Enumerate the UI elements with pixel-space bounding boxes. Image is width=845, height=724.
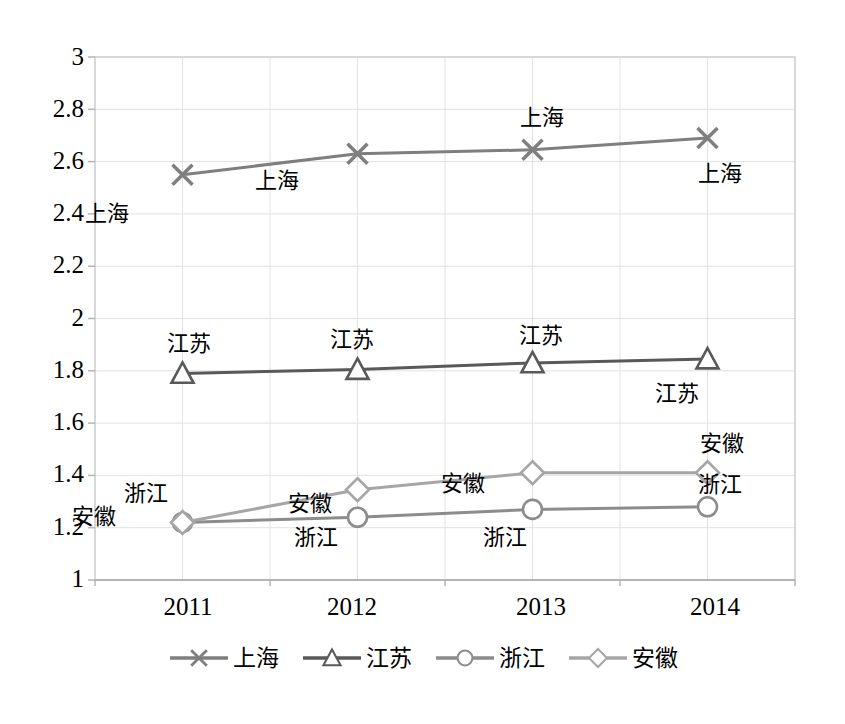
y-tick-3: 3 — [28, 44, 84, 69]
data-label-zhejiang-2011: 浙江 — [107, 483, 185, 505]
y-tick-2.2: 2.2 — [28, 252, 84, 277]
x-marker — [168, 645, 230, 671]
legend-label: 安徽 — [632, 647, 678, 670]
data-label-shanghai-2011: 上海 — [68, 203, 146, 225]
y-tick-2.6: 2.6 — [28, 148, 84, 173]
data-label-anhui-2013: 安徽 — [424, 473, 502, 495]
data-label-shanghai-2012: 上海 — [238, 170, 316, 192]
x-tick-2014: 2014 — [655, 594, 775, 619]
y-tick-1.8: 1.8 — [28, 357, 84, 382]
legend-label: 浙江 — [499, 647, 545, 670]
x-tick-2013: 2013 — [481, 594, 601, 619]
data-label-jiangsu-2014: 江苏 — [638, 383, 716, 405]
data-label-jiangsu-2012: 江苏 — [313, 329, 391, 351]
y-tick-1.4: 1.4 — [28, 461, 84, 486]
y-tick-1.6: 1.6 — [28, 409, 84, 434]
circle-marker — [434, 645, 496, 671]
legend-item-2[interactable]: 江苏 — [301, 645, 412, 671]
legend-item-1[interactable]: 上海 — [168, 645, 279, 671]
y-tick-2.8: 2.8 — [28, 96, 84, 121]
legend-item-3[interactable]: 浙江 — [434, 645, 545, 671]
data-label-anhui-2011: 安徽 — [55, 506, 133, 528]
data-label-shanghai-2013: 上海 — [503, 107, 581, 129]
y-tick-1: 1 — [28, 566, 84, 591]
gridlines — [95, 57, 795, 580]
x-tick-2011: 2011 — [128, 594, 248, 619]
legend-item-4[interactable]: 安徽 — [567, 645, 678, 671]
diamond-marker — [567, 645, 629, 671]
data-label-anhui-2014: 安徽 — [683, 433, 761, 455]
legend-label: 江苏 — [366, 647, 412, 670]
data-label-jiangsu-2013: 江苏 — [502, 325, 580, 347]
data-label-anhui-2012: 安徽 — [271, 493, 349, 515]
line-chart: 3 2.8 2.6 2.4 2.2 2 1.8 1.6 1.4 1.2 1 20… — [0, 0, 845, 724]
chart-legend: 上海江苏浙江安徽 — [0, 645, 845, 671]
legend-label: 上海 — [233, 647, 279, 670]
data-label-shanghai-2014: 上海 — [681, 163, 759, 185]
data-label-zhejiang-2013: 浙江 — [466, 527, 544, 549]
data-label-zhejiang-2012: 浙江 — [277, 527, 355, 549]
y-tick-2: 2 — [28, 305, 84, 330]
data-label-jiangsu-2011: 江苏 — [150, 333, 228, 355]
data-label-zhejiang-2014: 浙江 — [681, 474, 759, 496]
x-tick-2012: 2012 — [292, 594, 412, 619]
triangle-marker — [301, 645, 363, 671]
